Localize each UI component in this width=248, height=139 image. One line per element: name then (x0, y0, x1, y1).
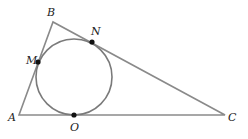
point-label-n: N (90, 25, 101, 38)
tangent-point-o (71, 112, 76, 117)
vertex-label-a: A (7, 111, 16, 124)
inscribed-circle (36, 39, 112, 115)
point-label-o: O (70, 121, 79, 134)
triangle-abc (19, 22, 225, 115)
point-label-m: M (25, 54, 38, 67)
triangle-incircle-diagram: A B C M N O (0, 0, 248, 139)
vertex-label-b: B (46, 6, 55, 19)
tangent-point-n (89, 39, 94, 44)
vertex-label-c: C (228, 111, 237, 124)
